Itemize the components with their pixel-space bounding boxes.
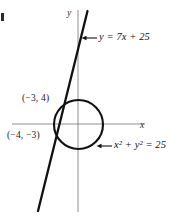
graph-canvas — [0, 0, 185, 224]
point-label-lower: (−4, −3) — [7, 131, 40, 141]
line-equation-label: y = 7x + 25 — [99, 32, 150, 43]
point-label-upper: (−3, 4) — [22, 94, 49, 104]
y-axis-label: y — [67, 9, 71, 19]
x-axis-label-text: x — [140, 120, 144, 130]
circle-equation-label: x² + y² = 25 — [114, 140, 166, 151]
x-axis-label: x — [140, 121, 144, 131]
point-b-text: (−4, −3) — [7, 130, 40, 140]
circle-equation-text: x² + y² = 25 — [114, 139, 166, 150]
math-figure: y = 7x + 25 x² + y² = 25 (−3, 4) (−4, −3… — [0, 0, 185, 224]
line-callout-arrow — [82, 36, 98, 40]
line-curve — [38, 11, 88, 211]
point-a-text: (−3, 4) — [22, 93, 49, 103]
circle-callout-arrow — [97, 144, 113, 148]
line-equation-text: y = 7x + 25 — [99, 31, 150, 42]
y-axis-label-text: y — [67, 8, 71, 18]
